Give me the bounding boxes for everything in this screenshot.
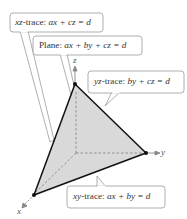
- yz-trace-callout-tail: [105, 92, 120, 106]
- yz-trace-label: yz-trace: by + cz = d: [94, 77, 170, 86]
- x-axis-label: x: [17, 207, 21, 216]
- x-axis: [24, 195, 34, 205]
- z-arrow-icon: [73, 66, 77, 71]
- plane-label: Plane: ax + by + cz = d: [39, 41, 126, 50]
- x-intercept-point: [32, 193, 36, 197]
- xz-trace-label: xz-trace: ax + cz = d: [15, 18, 91, 27]
- xy-trace-label: xy-trace: ax + by = d: [73, 192, 150, 201]
- plane-traces-diagram: [0, 0, 187, 219]
- x-arrow-icon: [22, 203, 27, 208]
- y-intercept-point: [144, 151, 148, 155]
- z-axis-label: z: [73, 56, 77, 65]
- xy-trace-callout-tail: [97, 176, 106, 187]
- y-axis-label: y: [161, 148, 165, 157]
- y-arrow-icon: [155, 151, 160, 155]
- z-intercept-point: [73, 82, 77, 86]
